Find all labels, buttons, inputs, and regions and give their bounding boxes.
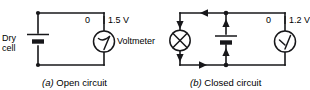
circuit-a-caption-text: Open circuit bbox=[56, 77, 107, 88]
arrow-battery-upper-up bbox=[222, 19, 229, 27]
circuit-a-voltmeter-symbol bbox=[94, 31, 115, 52]
circuit-b-scale-min-label: 0 bbox=[266, 15, 271, 25]
circuit-b-group bbox=[170, 9, 296, 69]
circuit-b-scale-max-label: 1.2 V bbox=[289, 15, 310, 25]
dry-cell-label-line1: Dry bbox=[2, 33, 36, 43]
circuit-b-caption-text: Closed circuit bbox=[204, 77, 261, 88]
arrow-lamp-lower-down bbox=[176, 54, 183, 62]
circuit-a-scale-min-label: 0 bbox=[85, 15, 90, 25]
circuit-figure: Dry cell 0 1.5 V Voltmeter (a) Open circ… bbox=[0, 0, 310, 90]
voltmeter-name-label: Voltmeter bbox=[117, 36, 155, 46]
circuit-b-node-top bbox=[224, 11, 229, 16]
circuit-b-battery-symbol bbox=[215, 36, 237, 43]
circuit-b-caption: (b) Closed circuit bbox=[190, 72, 261, 90]
circuit-b-lamp-symbol bbox=[170, 30, 190, 50]
circuit-b-caption-index: (b) bbox=[190, 77, 202, 88]
circuit-b-node-bottom bbox=[224, 63, 229, 68]
arrow-battery-lower-up bbox=[222, 48, 229, 56]
circuit-a-node-bottom-left bbox=[36, 63, 40, 67]
arrow-lamp-upper-down bbox=[176, 21, 183, 29]
dry-cell-label: Dry cell bbox=[2, 33, 36, 53]
circuit-a-node-top-left bbox=[36, 11, 40, 15]
circuit-a-group bbox=[27, 11, 115, 67]
arrow-bottom-rightward bbox=[199, 61, 207, 69]
circuit-a-caption-index: (a) bbox=[42, 77, 54, 88]
arrow-top-leftward bbox=[200, 9, 208, 17]
circuit-a-caption: (a) Open circuit bbox=[42, 72, 107, 90]
circuit-a-scale-max-label: 1.5 V bbox=[108, 15, 129, 25]
dry-cell-label-line2: cell bbox=[2, 43, 36, 53]
circuit-b-voltmeter-symbol bbox=[275, 31, 296, 52]
